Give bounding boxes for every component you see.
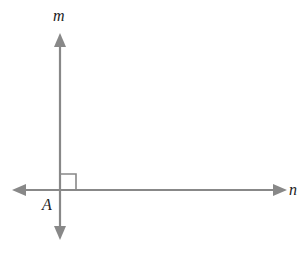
right-angle-marker	[60, 174, 76, 190]
arrowhead-n-right	[273, 184, 287, 196]
label-m: m	[53, 8, 65, 24]
label-a: A	[42, 197, 52, 213]
arrowhead-m-up	[54, 33, 66, 47]
perpendicular-lines-figure	[0, 0, 297, 259]
arrowhead-n-left	[12, 184, 26, 196]
arrowhead-m-down	[54, 226, 66, 240]
label-n: n	[289, 182, 297, 198]
